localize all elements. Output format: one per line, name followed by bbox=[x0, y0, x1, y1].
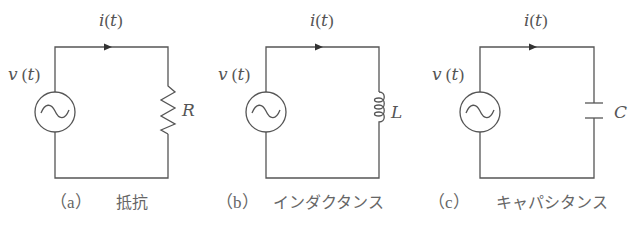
current-label: i(t) bbox=[310, 10, 334, 30]
current-label: i(t) bbox=[524, 10, 548, 30]
caption-tag: （a） bbox=[50, 193, 92, 212]
circuit-a-resistance: i(t) v (t) R （a） 抵抗 bbox=[8, 10, 195, 212]
wire-loop bbox=[266, 47, 379, 178]
caption-tag: （c） bbox=[428, 193, 470, 212]
circuit-c-capacitance: i(t) v (t) C （c） キャパシタンス bbox=[428, 10, 627, 212]
circuit-b-inductance: i(t) v (t) L （b） インダクタンス bbox=[216, 10, 402, 212]
ac-source-icon bbox=[460, 92, 500, 132]
ac-source-icon bbox=[246, 92, 286, 132]
current-label: i(t) bbox=[99, 10, 123, 30]
caption-text: キャパシタンス bbox=[496, 193, 608, 212]
inductor-icon bbox=[375, 92, 385, 130]
caption-tag: （b） bbox=[216, 193, 259, 212]
current-arrow-icon bbox=[529, 44, 537, 51]
voltage-label: v (t) bbox=[218, 64, 250, 84]
caption-text: 抵抗 bbox=[116, 193, 148, 212]
current-arrow-icon bbox=[315, 44, 323, 51]
capacitor-label: C bbox=[614, 102, 627, 122]
voltage-label: v (t) bbox=[8, 64, 40, 84]
capacitor-icon bbox=[585, 103, 603, 118]
resistor-label: R bbox=[181, 100, 195, 120]
wire-loop bbox=[55, 47, 168, 178]
current-arrow-icon bbox=[104, 44, 112, 51]
voltage-label: v (t) bbox=[432, 64, 464, 84]
ac-source-icon bbox=[35, 92, 75, 132]
caption-text: インダクタンス bbox=[273, 193, 384, 212]
inductor-label: L bbox=[390, 102, 402, 122]
resistor-icon bbox=[161, 82, 175, 134]
circuit-figure: i(t) v (t) R （a） 抵抗 i(t) v (t) bbox=[0, 0, 643, 231]
wire-loop bbox=[480, 47, 594, 178]
